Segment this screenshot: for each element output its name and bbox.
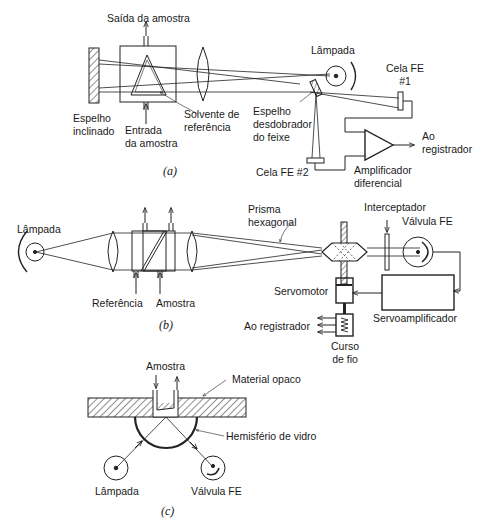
label-servomotor: Servomotor <box>274 285 328 297</box>
caption-c: (c) <box>161 504 174 519</box>
label-cell1-line1: Cela FE <box>380 62 430 74</box>
photocell-2-icon <box>307 158 324 163</box>
label-prism-line2: hexagonal <box>248 216 296 228</box>
label-ref-solvent-line1: Solvente de <box>184 108 239 120</box>
label-prism-line1: Prisma <box>248 203 281 215</box>
caption-b: (b) <box>159 318 173 333</box>
label-phototube-b: Válvula FE <box>402 215 453 227</box>
hexagonal-prism-icon <box>322 243 367 261</box>
label-lamp-b: Lâmpada <box>17 223 61 235</box>
label-splitter-line3: do feixe <box>253 131 290 143</box>
label-to-recorder-a-line1: Ao <box>422 130 435 142</box>
label-slidewire-line1: Curso <box>320 340 370 352</box>
label-ref-solvent-line2: referência <box>184 121 231 133</box>
label-reference: Referência <box>92 297 143 309</box>
figure-c-drawing <box>88 375 246 480</box>
label-splitter-line2: desdobrador <box>253 118 312 130</box>
label-sample-out: Saída da amostra <box>107 12 190 24</box>
label-to-recorder-a-line2: registrador <box>422 143 472 155</box>
label-tilted-mirror-line2: inclinado <box>73 125 114 137</box>
label-cell1-line2: #1 <box>380 75 430 87</box>
label-opaque: Material opaco <box>232 373 301 385</box>
label-sample-b: Amostra <box>156 297 195 309</box>
glass-hemisphere-icon <box>135 417 197 448</box>
beam-splitter-icon <box>310 79 322 96</box>
label-amp-line1: Amplificador <box>354 164 412 176</box>
label-to-recorder-b: Ao registrador <box>244 320 310 332</box>
lens-icon <box>108 231 118 272</box>
sample-cell <box>120 46 176 102</box>
chopper-icon <box>385 234 389 270</box>
label-sample-in-line2: da amostra <box>125 137 178 149</box>
label-servoamp: Servoamplificador <box>373 312 457 324</box>
tilted-mirror-icon <box>89 48 99 103</box>
servoamplifier-box <box>382 275 454 310</box>
label-lamp-c: Lâmpada <box>95 485 139 497</box>
label-amp-line2: diferencial <box>354 177 402 189</box>
label-hemisphere: Hemisfério de vidro <box>226 430 316 442</box>
photocell-1-icon <box>398 92 403 110</box>
label-slidewire-line2: de fio <box>320 353 370 365</box>
label-sample-in-line1: Entrada <box>125 124 162 136</box>
label-sample-c: Amostra <box>146 360 185 372</box>
label-phototube-c: Válvula FE <box>191 485 242 497</box>
caption-a: (a) <box>163 164 177 179</box>
label-tilted-mirror-line1: Espelho <box>73 112 111 124</box>
label-cell2: Cela FE #2 <box>256 166 309 178</box>
label-lamp-a: Lâmpada <box>311 44 355 56</box>
label-splitter-line1: Espelho <box>253 105 291 117</box>
spectrophotometer-diagram: Saída da amostra Lâmpada Cela FE #1 Espe… <box>0 0 485 527</box>
lens-icon <box>197 47 209 101</box>
differential-amplifier-icon <box>365 130 393 160</box>
lens-icon <box>187 231 197 272</box>
label-chopper: Interceptador <box>364 201 426 213</box>
